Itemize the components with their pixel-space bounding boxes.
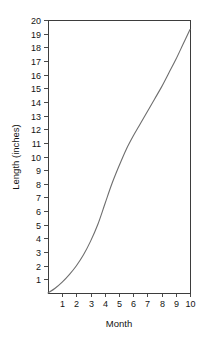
x-tick-label: 3 xyxy=(89,299,94,309)
y-tick-label: 5 xyxy=(36,221,41,231)
y-tick-label: 1 xyxy=(36,275,41,285)
y-tick-label: 16 xyxy=(31,71,41,81)
x-tick-label: 9 xyxy=(174,299,179,309)
x-tick-label: 6 xyxy=(131,299,136,309)
x-tick-label: 4 xyxy=(103,299,108,309)
chart-figure: 1234567891011121314151617181920 12345678… xyxy=(0,0,204,338)
y-tick-label: 14 xyxy=(31,98,41,108)
x-tick-label: 10 xyxy=(185,299,195,309)
y-tick-label: 11 xyxy=(32,139,41,149)
y-tick-label: 17 xyxy=(31,57,41,67)
y-tick-label: 6 xyxy=(36,207,41,217)
y-tick-label: 9 xyxy=(36,166,41,176)
y-tick-label: 20 xyxy=(31,16,41,26)
x-tick-label: 5 xyxy=(117,299,122,309)
y-tick-label: 12 xyxy=(31,125,41,135)
x-axis-title: Month xyxy=(106,318,132,329)
y-tick-label: 15 xyxy=(31,84,41,94)
y-tick-label: 10 xyxy=(31,153,41,163)
y-tick-label: 18 xyxy=(31,43,41,53)
y-tick-label: 3 xyxy=(36,248,41,258)
x-tick-label: 8 xyxy=(160,299,165,309)
line-chart-svg: 1234567891011121314151617181920 12345678… xyxy=(0,0,204,338)
x-tick-label: 7 xyxy=(145,299,150,309)
y-tick-label: 13 xyxy=(31,112,41,122)
y-tick-label: 8 xyxy=(36,180,41,190)
x-tick-label: 2 xyxy=(74,299,79,309)
y-tick-label: 2 xyxy=(36,262,41,272)
y-tick-label: 7 xyxy=(36,193,41,203)
x-tick-label: 1 xyxy=(60,299,65,309)
y-tick-label: 19 xyxy=(31,30,41,40)
y-tick-label: 4 xyxy=(36,234,41,244)
y-axis-title: Length (inches) xyxy=(10,124,21,189)
